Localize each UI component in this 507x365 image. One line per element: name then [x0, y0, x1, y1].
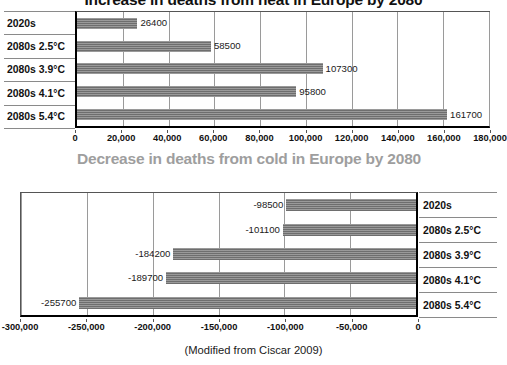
axis-tick-label: 0	[415, 322, 420, 332]
bar-row: -189700	[21, 266, 416, 290]
axis-tick-label: 40,000	[153, 133, 181, 143]
bottom-category-label: 2020s	[419, 193, 497, 218]
source-attribution: (Modified from Ciscar 2009)	[0, 344, 507, 356]
axis-tick-label: -100,000	[267, 322, 304, 332]
bar-row: 95800	[77, 80, 489, 103]
bottom-category-label: 2080s 2.5°C	[419, 218, 497, 243]
bar-row: -184200	[21, 242, 416, 266]
bottom-category-label: 2080s 3.9°C	[419, 243, 497, 268]
bar	[166, 272, 416, 284]
axis-tick-label: 80,000	[245, 133, 273, 143]
axis-tick-label: 140,000	[381, 133, 415, 143]
bar-value-label: -98500	[253, 198, 286, 212]
top-category-label: 2080s 3.9°C	[4, 59, 75, 82]
bar-row: -101100	[21, 217, 416, 241]
bar-value-label: -255700	[41, 296, 79, 310]
top-category-label: 2080s 5.4°C	[4, 106, 75, 129]
axis-tick-label: -50,000	[336, 322, 368, 332]
axis-tick-label: 0	[72, 133, 77, 143]
top-plot-area: 264005850010730095800161700	[75, 11, 490, 128]
bottom-plot-area: -98500-101100-184200-189700-255700	[20, 192, 418, 317]
bar-row: -98500	[21, 193, 416, 217]
bar-row: 58500	[77, 35, 489, 58]
gridline	[489, 12, 490, 126]
bar	[77, 86, 296, 97]
bar	[77, 41, 211, 52]
axis-tick-label: -150,000	[201, 322, 238, 332]
bar-value-label: 58500	[211, 39, 241, 53]
top-category-label: 2080s 4.1°C	[4, 82, 75, 105]
axis-tick-label: 120,000	[335, 133, 369, 143]
bar	[77, 18, 137, 29]
bar-value-label: -189700	[128, 271, 166, 285]
top-category-label: 2020s	[4, 12, 75, 35]
axis-tick-label: 20,000	[107, 133, 135, 143]
axis-tick-label: -250,000	[68, 322, 105, 332]
bar	[286, 199, 416, 211]
bar-row: 26400	[77, 12, 489, 35]
axis-tick-label: -300,000	[2, 322, 39, 332]
top-x-axis: 020,00040,00060,00080,000100,000120,0001…	[75, 130, 490, 146]
bar	[77, 63, 323, 74]
bar	[77, 109, 447, 120]
bottom-category-label: 2080s 5.4°C	[419, 293, 497, 318]
top-category-label-column: 2020s 2080s 2.5°C 2080s 3.9°C 2080s 4.1°…	[4, 11, 75, 128]
bar-value-label: 161700	[447, 108, 482, 122]
chart-increase-heat-deaths: Increase in deaths from heat in Europe b…	[0, 0, 507, 148]
bottom-category-label: 2080s 4.1°C	[419, 268, 497, 293]
bar-value-label: 107300	[323, 62, 358, 76]
axis-tick-label: 160,000	[427, 133, 461, 143]
bar	[283, 224, 416, 236]
axis-tick-label: 100,000	[289, 133, 323, 143]
axis-tick-label: 180,000	[473, 133, 507, 143]
bottom-x-axis: -300,000-250,000-200,000-150,000-100,000…	[20, 319, 418, 335]
top-category-label: 2080s 2.5°C	[4, 35, 75, 58]
bar-value-label: 95800	[296, 85, 326, 99]
bottom-category-label-column: 2020s 2080s 2.5°C 2080s 3.9°C 2080s 4.1°…	[419, 192, 497, 317]
axis-tick-label: -200,000	[134, 322, 171, 332]
bar-row: -255700	[21, 291, 416, 315]
chart-title-bottom: Decrease in deaths from cold in Europe b…	[0, 150, 498, 168]
chart-decrease-cold-deaths: Decrease in deaths from cold in Europe b…	[0, 150, 507, 340]
bar-value-label: -184200	[135, 247, 173, 261]
bar-value-label: -101100	[245, 223, 283, 237]
chart-title-top: Increase in deaths from heat in Europe b…	[0, 0, 507, 9]
bar-row: 107300	[77, 58, 489, 81]
bar-row: 161700	[77, 103, 489, 126]
axis-tick-label: 60,000	[199, 133, 227, 143]
bar	[79, 297, 416, 309]
bar-value-label: 26400	[137, 16, 167, 30]
bar	[173, 248, 416, 260]
figure-root: Increase in deaths from heat in Europe b…	[0, 0, 507, 365]
